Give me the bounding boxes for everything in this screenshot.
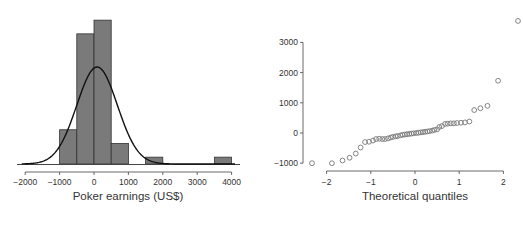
qq-point [330, 161, 335, 166]
qq-point [310, 161, 315, 166]
histogram-bar [60, 130, 77, 164]
qq-plot-panel: −10000100020003000 −2−1012 Theoretical q… [274, 19, 520, 202]
qq-point [496, 78, 501, 83]
chart-canvas: −2000−100001000200030004000 Poker earnin… [0, 0, 523, 231]
qq-point [358, 145, 363, 150]
qq-point [347, 155, 352, 160]
y-tick-label: −1000 [274, 158, 298, 168]
qq-x-axis-title: Theoretical quantiles [362, 190, 468, 202]
y-tick-label: 0 [293, 128, 298, 138]
x-tick-label: −2000 [13, 177, 37, 187]
x-tick-label: 4000 [222, 177, 241, 187]
qq-point [353, 151, 358, 156]
x-tick-label: −1000 [48, 177, 72, 187]
histogram-panel: −2000−100001000200030004000 Poker earnin… [13, 20, 241, 202]
x-tick-label: 3000 [188, 177, 207, 187]
histogram-x-axis: −2000−100001000200030004000 [13, 172, 241, 187]
x-tick-label: −2 [322, 177, 332, 187]
x-tick-label: 1000 [119, 177, 138, 187]
x-tick-label: −1 [366, 177, 376, 187]
x-tick-label: 1 [457, 177, 462, 187]
x-tick-label: 0 [413, 177, 418, 187]
x-tick-label: 0 [92, 177, 97, 187]
histogram-bar [214, 157, 231, 164]
x-tick-label: 2000 [153, 177, 172, 187]
qq-points [310, 19, 521, 166]
histogram-bar [111, 143, 128, 164]
qq-point [485, 103, 490, 108]
qq-y-axis: −10000100020003000 [274, 37, 303, 168]
histogram-x-axis-title: Poker earnings (US$) [73, 190, 184, 202]
qq-point [472, 108, 477, 113]
qq-point [467, 119, 472, 124]
histogram-bar [94, 20, 111, 164]
y-tick-label: 1000 [279, 98, 298, 108]
y-tick-label: 3000 [279, 37, 298, 47]
y-tick-label: 2000 [279, 68, 298, 78]
qq-x-axis: −2−1012 [322, 171, 506, 187]
qq-point [478, 106, 483, 111]
x-tick-label: 2 [501, 177, 506, 187]
qq-point [340, 158, 345, 163]
qq-point [516, 19, 521, 24]
histogram-bars [60, 20, 232, 164]
